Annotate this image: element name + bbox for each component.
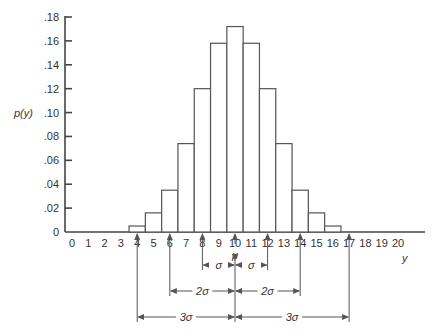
x-tick-label: 20 <box>392 237 404 249</box>
bar-15 <box>308 213 324 232</box>
bar-5 <box>145 213 161 232</box>
interval-label: 2σ <box>195 285 209 297</box>
bar-9 <box>211 43 227 232</box>
x-tick-label: 3 <box>118 237 124 249</box>
x-tick-label: 7 <box>183 237 189 249</box>
interval-label: 3σ <box>180 311 193 323</box>
y-tick-label: .04 <box>44 178 59 190</box>
x-tick-label: 0 <box>69 237 75 249</box>
interval-label: 3σ <box>286 311 299 323</box>
interval-label: 2σ <box>260 285 274 297</box>
bar-10 <box>227 27 243 232</box>
bar-14 <box>292 190 308 232</box>
y-axis-label: p(y) <box>13 107 33 119</box>
x-axis-label: y <box>401 252 409 264</box>
bar-4 <box>129 226 145 232</box>
y-tick-label: .08 <box>44 130 59 142</box>
x-tick-label: 11 <box>246 237 257 249</box>
y-tick-label: .16 <box>44 35 59 47</box>
y-tick-label: .18 <box>44 11 59 23</box>
x-tick-label: 5 <box>150 237 156 249</box>
y-tick-label: .02 <box>44 202 59 214</box>
x-tick-label: 13 <box>278 237 290 249</box>
bar-13 <box>276 144 292 232</box>
x-tick-label: 15 <box>310 237 322 249</box>
y-tick-label: .12 <box>44 83 59 95</box>
bar-6 <box>162 190 178 232</box>
x-tick-label: 1 <box>85 237 91 249</box>
bar-7 <box>178 144 194 232</box>
x-tick-label: 16 <box>327 237 339 249</box>
interval-label: σ <box>215 259 222 271</box>
bar-11 <box>243 43 259 232</box>
bar-16 <box>325 226 341 232</box>
bar-12 <box>259 89 275 232</box>
x-tick-label: 19 <box>376 237 388 249</box>
y-tick-label: 0 <box>53 226 59 238</box>
interval-label: σ <box>248 259 255 271</box>
mean-label: μ <box>231 249 238 261</box>
y-tick-label: .14 <box>44 59 59 71</box>
histogram-chart: 0.02.04.06.08.10.12.14.16.18p(y)01234567… <box>0 0 436 332</box>
x-tick-label: 9 <box>216 237 222 249</box>
bar-8 <box>194 89 210 232</box>
y-tick-label: .10 <box>44 107 59 119</box>
x-tick-label: 2 <box>102 237 108 249</box>
x-tick-label: 18 <box>359 237 371 249</box>
y-tick-label: .06 <box>44 154 59 166</box>
